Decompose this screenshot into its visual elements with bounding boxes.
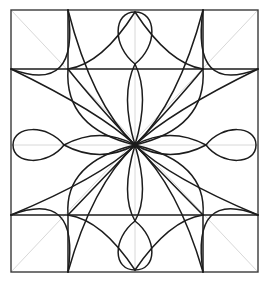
figure-root (0, 0, 269, 282)
geometric-rosette-drawing (0, 0, 269, 282)
